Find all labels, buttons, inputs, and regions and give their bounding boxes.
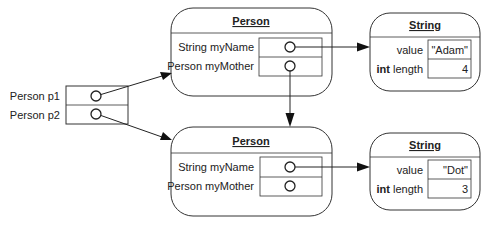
- reference-dot-p1: [91, 91, 101, 101]
- class-name: Person: [232, 15, 270, 27]
- field-label-value: value: [397, 44, 423, 56]
- field-value-value: "Adam": [431, 44, 468, 56]
- field-label-myname: String myName: [178, 161, 254, 173]
- reference-dot-myname: [285, 162, 295, 172]
- reference-dot-mymother: [285, 61, 295, 71]
- reference-dot-myname: [285, 42, 295, 52]
- reference-dot-mymother: [285, 181, 295, 191]
- arrow-line-p1: [101, 76, 162, 95]
- field-label-length: int length: [377, 63, 423, 75]
- field-label-mymother: Person myMother: [167, 180, 254, 192]
- arrowhead-icon: [160, 132, 172, 140]
- string-object-top: String value int length "Adam" 4: [370, 13, 480, 91]
- arrowhead-icon: [357, 43, 370, 52]
- string-object-bottom: String value int length "Dot" 3: [370, 133, 480, 210]
- field-value-value: "Dot": [443, 164, 468, 176]
- object-diagram: Person p1 Person p2 Person String myName…: [0, 0, 492, 226]
- variable-label-p1: Person p1: [10, 90, 60, 102]
- arrowhead-icon: [286, 113, 295, 127]
- field-type-int: int: [377, 183, 391, 195]
- arrow-line-p2: [101, 116, 162, 138]
- arrowhead-icon: [357, 163, 370, 172]
- class-name: String: [409, 19, 441, 31]
- field-label-value: value: [397, 164, 423, 176]
- field-value-length: 4: [462, 63, 468, 75]
- field-type-int: int: [377, 63, 391, 75]
- field-name-length: length: [390, 183, 423, 195]
- arrowhead-icon: [160, 72, 172, 80]
- field-label-mymother: Person myMother: [167, 60, 254, 72]
- class-name: Person: [232, 135, 270, 147]
- field-value-length: 3: [462, 183, 468, 195]
- field-name-length: length: [390, 63, 423, 75]
- field-label-myname: String myName: [178, 41, 254, 53]
- reference-dot-p2: [91, 109, 101, 119]
- person-object-bottom: Person String myName Person myMother: [167, 127, 332, 216]
- person-object-top: Person String myName Person myMother: [167, 8, 332, 96]
- class-name: String: [409, 139, 441, 151]
- field-label-length: int length: [377, 183, 423, 195]
- variable-label-p2: Person p2: [10, 109, 60, 121]
